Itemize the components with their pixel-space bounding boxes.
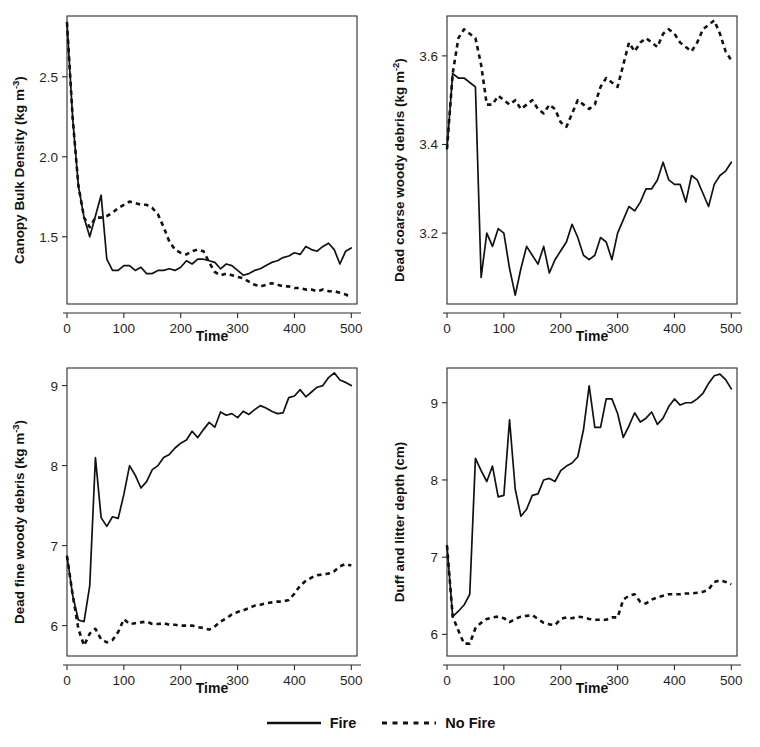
y-tick-label: 3.2 bbox=[419, 226, 438, 241]
series-line-no-fire-3 bbox=[447, 546, 731, 644]
x-axis-title-2: Time bbox=[196, 680, 229, 696]
y-tick-label: 7 bbox=[430, 550, 438, 565]
chart-panel-duff-and-litter-depth: Duff and litter depth (cm) 6789 01002003… bbox=[380, 352, 760, 704]
x-tick-label: 400 bbox=[663, 673, 686, 688]
x-tick-label: 200 bbox=[549, 321, 572, 336]
x-tick-label: 300 bbox=[606, 321, 629, 336]
chart-panel-canopy-bulk-density: Canopy Bulk Density (kg m-3) 1.52.02.5 0… bbox=[0, 0, 380, 352]
y-ticks-1: 3.23.43.6 bbox=[419, 49, 447, 241]
y-tick-label: 8 bbox=[430, 473, 438, 488]
x-axis-title-1: Time bbox=[576, 328, 609, 344]
x-tick-label: 0 bbox=[63, 673, 71, 688]
x-tick-label: 500 bbox=[720, 321, 743, 336]
y-tick-label: 6 bbox=[430, 627, 438, 642]
y-axis-title-group-1: Dead coarse woody debris (kg m-2) bbox=[390, 58, 407, 282]
y-tick-label: 8 bbox=[50, 459, 58, 474]
legend-swatch-solid-line bbox=[265, 717, 323, 729]
y-axis-title-group-3: Duff and litter depth (cm) bbox=[392, 442, 407, 603]
chart-panel-dead-fine-woody-debris: Dead fine woody debris (kg m-3) 6789 010… bbox=[0, 352, 380, 704]
series-line-fire-1 bbox=[447, 74, 731, 296]
y-axis-title-3: Duff and litter depth (cm) bbox=[392, 442, 407, 603]
x-tick-label: 500 bbox=[720, 673, 743, 688]
chart-svg-bottom-left: Dead fine woody debris (kg m-3) 6789 010… bbox=[0, 352, 380, 704]
x-tick-label: 100 bbox=[113, 321, 136, 336]
x-tick-label: 0 bbox=[443, 321, 451, 336]
x-tick-label: 300 bbox=[226, 321, 249, 336]
x-tick-label: 200 bbox=[169, 321, 192, 336]
x-tick-label: 100 bbox=[493, 673, 516, 688]
figure-panel-grid: Canopy Bulk Density (kg m-3) 1.52.02.5 0… bbox=[0, 0, 760, 747]
y-axis-title-0: Canopy Bulk Density (kg m-3) bbox=[10, 76, 27, 264]
x-tick-label: 100 bbox=[493, 321, 516, 336]
x-tick-label: 200 bbox=[169, 673, 192, 688]
chart-svg-top-right: Dead coarse woody debris (kg m-2) 3.23.4… bbox=[380, 0, 760, 352]
x-tick-label: 0 bbox=[443, 673, 451, 688]
series-line-no-fire-2 bbox=[67, 556, 351, 646]
legend-label-fire: Fire bbox=[330, 715, 357, 731]
y-tick-label: 9 bbox=[430, 396, 438, 411]
x-axis-title-3: Time bbox=[576, 680, 609, 696]
plot-frame-2 bbox=[67, 368, 357, 656]
y-tick-label: 3.4 bbox=[419, 137, 438, 152]
chart-legend: Fire No Fire bbox=[0, 706, 760, 740]
series-line-fire-3 bbox=[447, 374, 731, 616]
series-line-no-fire-0 bbox=[67, 22, 351, 297]
y-axis-title-group-0: Canopy Bulk Density (kg m-3) bbox=[10, 76, 27, 264]
y-tick-label: 3.6 bbox=[419, 49, 438, 64]
x-tick-label: 500 bbox=[340, 673, 363, 688]
y-tick-label: 2.0 bbox=[39, 150, 58, 165]
x-tick-label: 400 bbox=[663, 321, 686, 336]
chart-svg-bottom-right: Duff and litter depth (cm) 6789 01002003… bbox=[380, 352, 760, 704]
series-line-fire-0 bbox=[67, 22, 351, 275]
y-ticks-2: 6789 bbox=[50, 379, 67, 634]
y-tick-label: 6 bbox=[50, 619, 58, 634]
x-tick-label: 500 bbox=[340, 321, 363, 336]
y-tick-label: 9 bbox=[50, 379, 58, 394]
legend-entry-no-fire: No Fire bbox=[380, 715, 495, 731]
y-tick-label: 2.5 bbox=[39, 70, 58, 85]
x-tick-label: 400 bbox=[283, 673, 306, 688]
series-line-no-fire-1 bbox=[447, 20, 731, 148]
plot-frame-1 bbox=[447, 16, 737, 304]
y-ticks-0: 1.52.02.5 bbox=[39, 70, 67, 245]
x-tick-label: 300 bbox=[606, 673, 629, 688]
y-tick-label: 1.5 bbox=[39, 230, 58, 245]
chart-panel-dead-coarse-woody-debris: Dead coarse woody debris (kg m-2) 3.23.4… bbox=[380, 0, 760, 352]
x-tick-label: 100 bbox=[113, 673, 136, 688]
x-tick-label: 400 bbox=[283, 321, 306, 336]
x-tick-label: 300 bbox=[226, 673, 249, 688]
y-tick-label: 7 bbox=[50, 539, 58, 554]
chart-svg-top-left: Canopy Bulk Density (kg m-3) 1.52.02.5 0… bbox=[0, 0, 380, 352]
y-axis-title-1: Dead coarse woody debris (kg m-2) bbox=[390, 58, 407, 282]
x-tick-label: 200 bbox=[549, 673, 572, 688]
legend-swatch-dashed-line bbox=[380, 717, 438, 729]
y-ticks-3: 6789 bbox=[430, 396, 447, 643]
y-axis-title-group-2: Dead fine woody debris (kg m-3) bbox=[10, 420, 27, 624]
legend-label-no-fire: No Fire bbox=[445, 715, 495, 731]
x-axis-title-0: Time bbox=[196, 328, 229, 344]
legend-entry-fire: Fire bbox=[265, 715, 357, 731]
x-tick-label: 0 bbox=[63, 321, 71, 336]
y-axis-title-2: Dead fine woody debris (kg m-3) bbox=[10, 420, 27, 624]
series-line-fire-2 bbox=[67, 373, 351, 622]
